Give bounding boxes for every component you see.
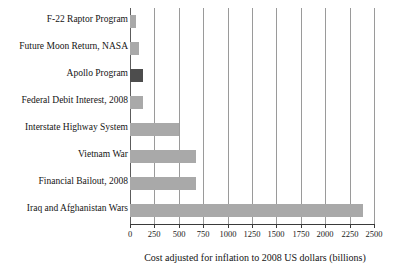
x-tick-label-750: 750 xyxy=(197,229,210,239)
x-tick-label-1750: 1750 xyxy=(293,229,310,239)
gridline-2500 xyxy=(374,8,375,224)
gridline-1750 xyxy=(301,8,302,224)
gridline-1000 xyxy=(228,8,229,224)
gridline-500 xyxy=(179,8,180,224)
gridline-0 xyxy=(130,8,131,224)
bar-f-22-raptor-program xyxy=(130,15,136,28)
category-label-vietnam-war: Vietnam War xyxy=(2,148,128,160)
x-tick-label-1500: 1500 xyxy=(268,229,285,239)
x-tick-2000 xyxy=(325,224,326,228)
x-tick-1250 xyxy=(252,224,253,228)
category-label-interstate-highway-system: Interstate Highway System xyxy=(2,121,128,133)
bar-future-moon-return-nasa xyxy=(130,42,139,55)
category-label-future-moon-return-nasa: Future Moon Return, NASA xyxy=(2,40,128,52)
x-tick-500 xyxy=(179,224,180,228)
x-tick-1750 xyxy=(301,224,302,228)
gridline-750 xyxy=(203,8,204,224)
x-tick-2500 xyxy=(374,224,375,228)
category-axis: F-22 Raptor Program Future Moon Return, … xyxy=(0,8,128,224)
x-tick-1000 xyxy=(228,224,229,228)
x-tick-0 xyxy=(130,224,131,228)
gridline-2250 xyxy=(350,8,351,224)
x-tick-label-0: 0 xyxy=(128,229,132,239)
bar-financial-bailout-2008 xyxy=(130,177,196,190)
x-tick-label-2250: 2250 xyxy=(342,229,359,239)
x-tick-label-2500: 2500 xyxy=(366,229,383,239)
bar-apollo-program xyxy=(130,69,143,82)
x-tick-1500 xyxy=(276,224,277,228)
gridline-250 xyxy=(154,8,155,224)
x-tick-250 xyxy=(154,224,155,228)
category-label-federal-debit-interest-2008: Federal Debit Interest, 2008 xyxy=(2,94,128,106)
category-label-apollo-program: Apollo Program xyxy=(2,67,128,79)
bar-iraq-and-afghanistan-wars xyxy=(130,204,363,217)
x-tick-label-500: 500 xyxy=(173,229,186,239)
category-label-iraq-and-afghanistan-wars: Iraq and Afghanistan Wars xyxy=(2,202,128,214)
x-tick-label-1250: 1250 xyxy=(244,229,261,239)
bar-vietnam-war xyxy=(130,150,196,163)
plot-area xyxy=(130,8,374,224)
x-tick-750 xyxy=(203,224,204,228)
bar-federal-debit-interest-2008 xyxy=(130,96,143,109)
x-tick-label-2000: 2000 xyxy=(317,229,334,239)
gridline-2000 xyxy=(325,8,326,224)
gridline-1250 xyxy=(252,8,253,224)
gridline-1500 xyxy=(276,8,277,224)
bar-interstate-highway-system xyxy=(130,123,179,136)
x-axis-title: Cost adjusted for inflation to 2008 US d… xyxy=(130,251,380,264)
x-tick-2250 xyxy=(350,224,351,228)
x-tick-label-1000: 1000 xyxy=(220,229,237,239)
category-label-f-22-raptor-program: F-22 Raptor Program xyxy=(2,13,128,25)
category-label-financial-bailout-2008: Financial Bailout, 2008 xyxy=(2,175,128,187)
x-tick-label-250: 250 xyxy=(148,229,161,239)
bar-chart: F-22 Raptor Program Future Moon Return, … xyxy=(0,0,393,276)
